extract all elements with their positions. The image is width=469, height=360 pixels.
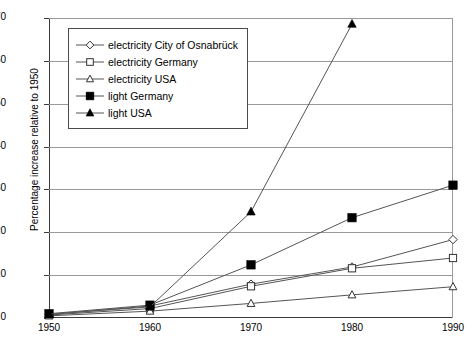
- data-point-marker: [247, 207, 255, 215]
- data-point-marker: [449, 181, 457, 189]
- legend-label: electricity Germany: [105, 56, 198, 68]
- legend-item: electricity USA: [75, 70, 238, 87]
- legend-item: light Germany: [75, 87, 238, 104]
- data-point-marker: [449, 254, 456, 261]
- data-point-marker: [348, 265, 355, 272]
- data-point-marker: [449, 235, 457, 243]
- data-point-marker: [247, 283, 254, 290]
- legend-label: electricity City of Osnabrück: [105, 39, 238, 51]
- data-point-marker: [348, 19, 356, 27]
- data-point-marker: [247, 261, 255, 269]
- legend-marker-icon: [75, 72, 105, 86]
- data-series: [45, 181, 457, 318]
- legend-label: light USA: [105, 107, 152, 119]
- legend-marker-icon: [75, 38, 105, 52]
- series-line: [49, 185, 453, 314]
- legend-label: light Germany: [105, 90, 173, 102]
- data-point-marker: [348, 214, 356, 222]
- legend-marker-icon: [75, 106, 105, 120]
- legend-item: electricity City of Osnabrück: [75, 36, 238, 53]
- data-point-marker: [449, 283, 457, 290]
- legend: electricity City of Osnabrückelectricity…: [68, 28, 248, 129]
- legend-item: light USA: [75, 104, 238, 121]
- legend-marker-icon: [75, 55, 105, 69]
- legend-marker-icon: [75, 89, 105, 103]
- legend-item: electricity Germany: [75, 53, 238, 70]
- legend-label: electricity USA: [105, 73, 176, 85]
